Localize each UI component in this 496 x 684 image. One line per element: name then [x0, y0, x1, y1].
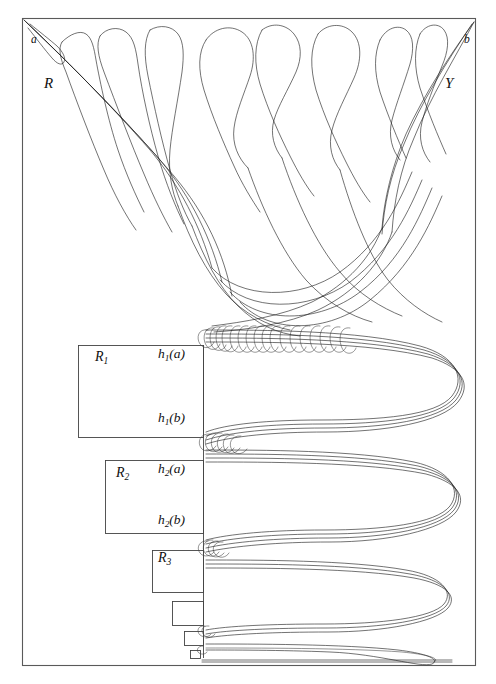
flow-curve-connector-7 [192, 226, 300, 336]
flow-curve-diag-2 [24, 20, 222, 282]
flow-curve-finger-4b [145, 30, 192, 226]
flow-curve-serp-r5 [206, 450, 455, 540]
partition-rect-R5 [185, 632, 204, 646]
h-label-h2a-arg: (a) [169, 461, 185, 476]
h-label-h1a-base: h [158, 346, 165, 361]
partition-label-R2: R2 [116, 466, 129, 482]
flow-curve-serp-r2 [206, 334, 460, 436]
flow-curve-connector-5 [340, 170, 442, 322]
flow-curve-serp-r12 [206, 644, 435, 665]
flow-curve-serp-r7 [206, 458, 459, 548]
flow-curve-rfinger-1 [380, 27, 413, 160]
h-label-h1b: h1(b) [158, 411, 185, 427]
region-label-Y: Y [445, 76, 453, 91]
corner-label-b: b [464, 34, 470, 46]
partition-label-R3-base: R [158, 550, 167, 565]
flow-curve-rdiag-2 [392, 22, 474, 232]
h-label-h2b-arg: (b) [169, 512, 185, 527]
flow-curve-arch-3b [312, 34, 370, 202]
flow-curve-family [24, 20, 474, 665]
flow-curve-serp-r3 [206, 338, 462, 440]
flow-curve-finger-2 [62, 32, 144, 212]
partition-label-R3: R3 [158, 551, 171, 567]
flow-curve-serp-r1 [206, 330, 458, 432]
h-label-h2b-base: h [158, 512, 165, 527]
flow-curve-arch-1 [206, 28, 253, 168]
partition-label-R1-base: R [95, 349, 104, 364]
h-label-h2a-base: h [158, 461, 165, 476]
flow-curve-serp-r9 [206, 560, 447, 630]
flow-curve-arch-1b [200, 40, 260, 212]
partition-label-R3-sub: 3 [167, 557, 172, 567]
partition-label-R2-base: R [116, 465, 125, 480]
flow-curve-fold-a2 [220, 180, 422, 304]
corner-label-a: a [31, 34, 37, 46]
flow-curve-finger-3 [100, 29, 184, 224]
h-label-h1b-arg: (b) [169, 410, 185, 425]
flow-curve-diag-3 [26, 22, 232, 296]
flow-curve-connector-4 [282, 158, 402, 316]
partition-rect-R4 [173, 602, 204, 626]
h-label-h1b-base: h [158, 410, 165, 425]
partition-rectangles [79, 346, 204, 659]
h-label-h2a: h2(a) [158, 462, 185, 478]
flow-curve-connector-2 [214, 232, 392, 332]
figure-page: a b R Y R1 R2 R3 h1(a) h1(b) h2(a) h2(b) [0, 0, 496, 684]
partition-label-R2-sub: 2 [125, 472, 130, 482]
h-label-h2b: h2(b) [158, 513, 185, 529]
flow-curve-diag-1 [24, 20, 212, 268]
h-label-h1a-arg: (a) [169, 346, 185, 361]
flow-curve-finger-4 [150, 27, 183, 206]
partition-label-R1-sub: 1 [104, 356, 109, 366]
flow-curve-arch-2b [256, 30, 314, 196]
flow-curve-fold-a3 [230, 188, 432, 316]
region-label-R: R [44, 76, 53, 91]
flow-curve-serp-r6 [206, 454, 457, 544]
partition-rect-R6 [191, 651, 201, 659]
flow-curve-rfinger-2 [420, 25, 448, 162]
figure-canvas [0, 0, 496, 684]
flow-curve-serp-r11 [206, 568, 451, 638]
flow-curve-fold-a4 [240, 196, 442, 326]
flow-curve-serp-r8 [206, 462, 461, 552]
flow-curve-serp-r4 [206, 342, 464, 444]
flow-curve-connector-6 [178, 206, 290, 330]
partition-label-R1: R1 [95, 350, 108, 366]
flow-curve-arch-3 [318, 25, 360, 170]
h-label-h1a: h1(a) [158, 347, 185, 363]
